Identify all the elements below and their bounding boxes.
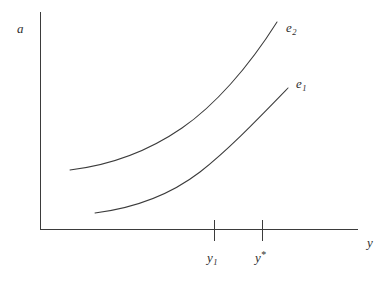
curve-label-e1: e1 xyxy=(296,77,306,90)
curve-label-e2-base: e xyxy=(286,20,292,35)
curve-e1 xyxy=(95,88,288,213)
curve-label-e1-base: e xyxy=(296,76,302,91)
tick-label-ystar: y* xyxy=(255,251,266,264)
curve-e2 xyxy=(70,22,277,170)
tick-label-y1-subscript: 1 xyxy=(213,257,217,267)
economics-curve-diagram: a y e2 e1 y1 y* xyxy=(0,0,390,286)
tick-label-y1-base: y xyxy=(207,250,213,265)
curve-label-e1-subscript: 1 xyxy=(302,83,306,93)
tick-label-y1: y1 xyxy=(207,251,217,264)
curve-label-e2-subscript: 2 xyxy=(292,27,296,37)
tick-label-ystar-base: y xyxy=(255,250,261,265)
curve-label-e2: e2 xyxy=(286,21,296,34)
diagram-canvas xyxy=(0,0,390,286)
y-axis-label: a xyxy=(17,22,24,35)
tick-label-ystar-superscript: * xyxy=(261,249,266,260)
x-axis-label: y xyxy=(367,236,373,249)
